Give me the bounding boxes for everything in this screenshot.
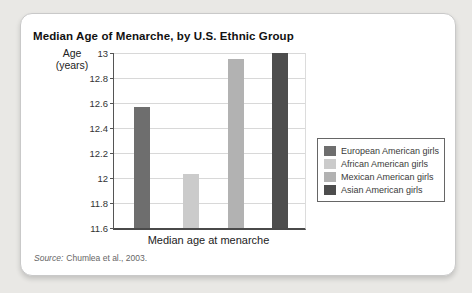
source-note: Source:Chumlea et al., 2003. bbox=[34, 253, 147, 263]
legend-swatch bbox=[324, 185, 336, 195]
legend-item-african-american-girls: African American girls bbox=[324, 157, 440, 170]
legend-label: Mexican American girls bbox=[341, 172, 434, 182]
source-text: Chumlea et al., 2003. bbox=[66, 253, 147, 263]
chart-title: Median Age of Menarche, by U.S. Ethnic G… bbox=[33, 30, 294, 42]
bar-african-american-girls bbox=[183, 174, 199, 228]
bar-mexican-american-girls bbox=[228, 59, 244, 228]
bar-asian-american-girls bbox=[272, 53, 288, 228]
legend-label: European American girls bbox=[341, 146, 439, 156]
y-tick-mark bbox=[110, 153, 114, 154]
y-tick-label: 11.6 bbox=[90, 223, 108, 234]
y-tick-mark bbox=[110, 203, 114, 204]
y-tick-mark bbox=[110, 53, 114, 54]
y-tick-label: 12.2 bbox=[90, 148, 109, 159]
bar-european-american-girls bbox=[134, 107, 150, 228]
y-tick-mark bbox=[110, 103, 114, 104]
plot-area bbox=[113, 53, 306, 230]
x-axis-label: Median age at menarche bbox=[113, 234, 304, 246]
legend: European American girlsAfrican American … bbox=[317, 138, 445, 202]
legend-item-asian-american-girls: Asian American girls bbox=[324, 183, 440, 196]
y-tick-label: 13 bbox=[97, 48, 108, 59]
legend-label: African American girls bbox=[341, 159, 428, 169]
y-tick-labels: 1312.812.612.412.21211.811.6 bbox=[21, 53, 108, 228]
legend-item-mexican-american-girls: Mexican American girls bbox=[324, 170, 440, 183]
legend-swatch bbox=[324, 159, 336, 169]
y-tick-label: 12 bbox=[97, 173, 108, 184]
y-tick-label: 12.6 bbox=[90, 98, 109, 109]
y-tick-mark bbox=[110, 178, 114, 179]
y-tick-mark bbox=[110, 128, 114, 129]
legend-item-european-american-girls: European American girls bbox=[324, 144, 440, 157]
y-tick-mark bbox=[110, 228, 114, 229]
y-tick-label: 11.8 bbox=[90, 198, 108, 209]
y-tick-label: 12.4 bbox=[90, 123, 109, 134]
legend-swatch bbox=[324, 146, 336, 156]
y-tick-mark bbox=[110, 78, 114, 79]
chart-card: Median Age of Menarche, by U.S. Ethnic G… bbox=[20, 13, 456, 276]
source-prefix: Source: bbox=[34, 253, 63, 263]
legend-swatch bbox=[324, 172, 336, 182]
legend-label: Asian American girls bbox=[341, 185, 423, 195]
y-tick-label: 12.8 bbox=[90, 73, 109, 84]
